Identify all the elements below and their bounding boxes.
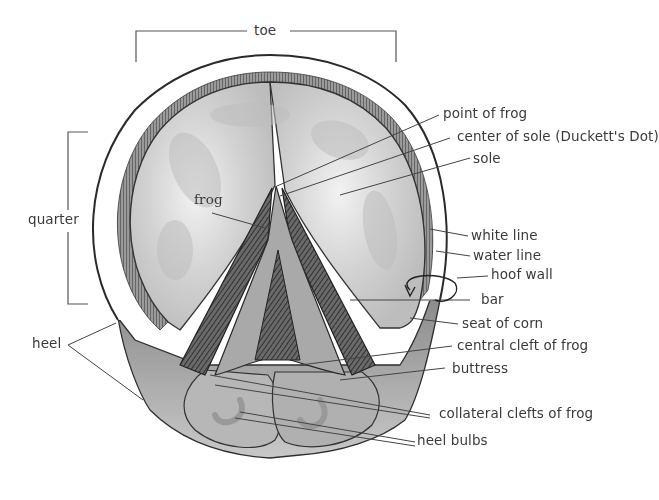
label-buttress: buttress <box>452 362 508 376</box>
label-center-of-sole: center of sole (Duckett's Dot) <box>457 130 659 144</box>
label-hoof-wall: hoof wall <box>491 268 553 282</box>
label-heel-bulbs: heel bulbs <box>417 434 488 448</box>
label-water-line: water line <box>473 249 541 263</box>
label-heel: heel <box>32 337 61 351</box>
label-toe: toe <box>254 24 276 38</box>
label-white-line: white line <box>471 229 538 243</box>
label-collateral-clefts: collateral clefts of frog <box>439 407 593 421</box>
label-frog: frog <box>194 193 223 207</box>
label-sole: sole <box>473 152 501 166</box>
label-quarter: quarter <box>28 213 79 227</box>
label-central-cleft: central cleft of frog <box>457 339 588 353</box>
label-point-of-frog: point of frog <box>443 107 527 121</box>
label-bar: bar <box>481 293 504 307</box>
label-seat-of-corn: seat of corn <box>462 317 543 331</box>
